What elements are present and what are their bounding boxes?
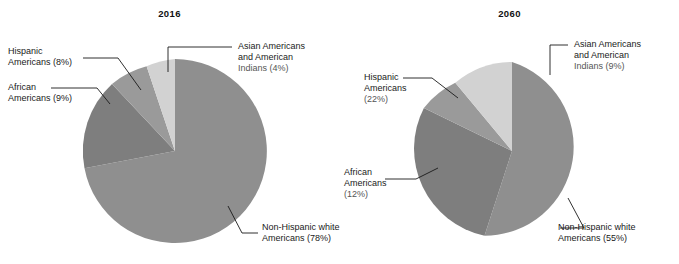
label-asian-2016: Asian Americans and American Indians (4%… [238,41,305,75]
label-hispanic-line1: Hispanic [364,72,399,82]
label-african-2060: African Americans (12%) [344,167,387,201]
label-hispanic-line2: Americans [364,83,407,93]
label-asian-line2: and American [574,50,629,60]
label-hispanic-line2: Americans (8%) [8,57,72,67]
label-asian-line3: Indians (9%) [574,61,625,71]
label-asian-line1: Asian Americans [574,39,641,49]
label-hispanic-line1: Hispanic [8,46,43,56]
label-african-line2: Americans (9%) [8,93,72,103]
pie-panel-2016: 2016 [0,0,339,264]
label-asian-line3: Indians (4%) [238,63,289,73]
label-african-line3: (12%) [344,189,368,199]
label-white-2016: Non-Hispanic white Americans (78%) [262,222,340,244]
label-white-2060: Non-Hispanic white Americans (55%) [558,222,636,244]
label-asian-2060: Asian Americans and American Indians (9%… [574,39,641,73]
label-african-2016: African Americans (9%) [8,82,72,104]
label-asian-line2: and American [238,52,293,62]
label-white-line2: Americans (78%) [262,233,331,243]
label-african-line1: African [344,167,372,177]
label-african-line2: Americans [344,178,387,188]
label-white-line1: Non-Hispanic white [558,222,636,232]
label-asian-line1: Asian Americans [238,41,305,51]
figure-root: 2016 [0,0,679,264]
label-african-line1: African [8,82,36,92]
label-white-line2: Americans (55%) [558,233,627,243]
pie-panel-2060: 2060 [340,0,679,264]
label-hispanic-line3: (22%) [364,94,388,104]
label-white-line1: Non-Hispanic white [262,222,340,232]
label-hispanic-2060: Hispanic Americans (22%) [364,72,407,106]
label-hispanic-2016: Hispanic Americans (8%) [8,46,72,68]
